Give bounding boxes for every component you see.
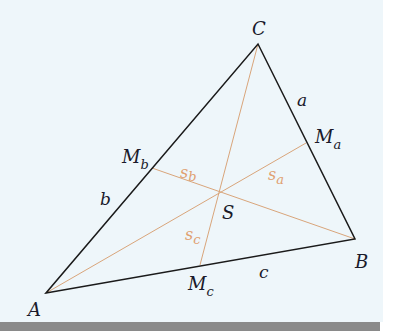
midpoint-mb-sub: b bbox=[140, 157, 148, 172]
median-label-sc: sc bbox=[185, 225, 201, 247]
midpoint-label-mb: Mb bbox=[121, 146, 149, 172]
midpoint-label-ma: Ma bbox=[314, 126, 341, 152]
median-label-sb: sb bbox=[180, 163, 197, 184]
median-sa-sub: a bbox=[276, 172, 284, 187]
midpoint-label-mc: Mc bbox=[187, 273, 214, 299]
midpoint-ma-sub: a bbox=[333, 137, 341, 152]
side-label-a: a bbox=[297, 90, 307, 110]
midpoint-ma-main: M bbox=[314, 126, 334, 147]
median-sb-main: s bbox=[180, 163, 188, 182]
median-sc-main: s bbox=[185, 225, 193, 244]
midpoint-mc-main: M bbox=[187, 273, 207, 294]
median-sc-sub: c bbox=[193, 232, 201, 247]
centroid-label-s: S bbox=[222, 202, 234, 223]
vertex-label-c: C bbox=[252, 18, 266, 39]
vertex-label-a: A bbox=[26, 299, 41, 320]
median-label-sa: sa bbox=[268, 165, 284, 187]
midpoint-mb-main: M bbox=[121, 146, 141, 167]
triangle-medians-diagram: C B A a b c Ma Mb Mc S sb sa sc bbox=[0, 0, 400, 331]
median-sa-main: s bbox=[268, 165, 276, 184]
side-label-c: c bbox=[259, 262, 269, 282]
side-label-b: b bbox=[100, 189, 111, 209]
vertex-label-b: B bbox=[354, 251, 368, 272]
midpoint-mc-sub: c bbox=[206, 284, 214, 299]
triangle-abc bbox=[46, 44, 355, 293]
median-sb-sub: b bbox=[188, 169, 196, 184]
